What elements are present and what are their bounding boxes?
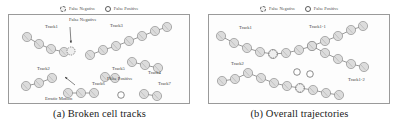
- cell-marker: [216, 31, 225, 40]
- cell-marker: [307, 41, 316, 50]
- cell-marker: [320, 36, 329, 45]
- cell-marker: [282, 81, 291, 90]
- cell-marker: [333, 31, 342, 40]
- cell-marker: [320, 48, 329, 57]
- track-label: False Positive: [107, 76, 133, 81]
- legend-item-false-negative: False Negative: [60, 6, 95, 12]
- cell-marker: [152, 91, 161, 100]
- figure-container: False Negative False Positive Track1Fals…: [0, 0, 399, 135]
- cell-marker: [359, 62, 368, 71]
- outline-circle-icon: [305, 6, 311, 12]
- track-label: False Negative: [69, 17, 96, 22]
- annotation-arrowhead: [70, 41, 72, 43]
- cell-marker: [46, 44, 55, 53]
- cell-marker: [229, 38, 238, 47]
- cell-marker: [150, 26, 159, 35]
- false-negative-marker: [296, 84, 304, 92]
- false-positive-marker: [118, 92, 125, 99]
- track-diagram-panel-b: Track1Track1-1Track1-2Track2: [209, 15, 390, 104]
- cell-marker: [47, 73, 56, 82]
- track-label: Track2: [231, 61, 245, 66]
- cell-marker: [256, 73, 265, 82]
- cell-marker: [127, 57, 136, 66]
- panel-broken-cell-tracks: False Negative False Positive Track1Fals…: [0, 0, 199, 135]
- panel-overall-trajectories: False Negative False Positive Track1Trac…: [200, 0, 399, 135]
- cell-marker: [346, 25, 355, 34]
- false-positive-marker: [307, 71, 314, 78]
- outline-circle-icon: [105, 6, 111, 12]
- track-label: Track4: [148, 70, 162, 75]
- legend-item-false-positive: False Positive: [305, 6, 338, 12]
- dashed-circle-icon: [260, 6, 266, 12]
- track-label: Track1: [45, 24, 59, 29]
- track-diagram-panel-a: Track1False NegativeTrack3Track5Track4Fa…: [9, 15, 190, 104]
- cell-marker: [294, 45, 303, 54]
- cell-marker: [346, 59, 355, 68]
- cell-marker: [89, 88, 98, 97]
- track-label: Track7: [158, 81, 172, 86]
- legend-label-false-positive: False Positive: [114, 7, 139, 11]
- cell-marker: [76, 88, 85, 97]
- legend-item-false-positive: False Positive: [105, 6, 138, 12]
- cell-marker: [308, 85, 317, 94]
- cell-marker: [269, 78, 278, 87]
- track-label: Track2: [37, 66, 51, 71]
- track-label: Track1: [239, 25, 253, 30]
- dashed-circle-icon: [60, 6, 66, 12]
- cell-marker: [22, 32, 31, 41]
- plot-area-panel-a: Track1False NegativeTrack3Track5Track4Fa…: [8, 14, 190, 104]
- false-positive-marker: [294, 69, 301, 76]
- cell-marker: [281, 48, 290, 57]
- legend-label-false-negative: False Negative: [69, 7, 95, 11]
- cell-marker: [21, 81, 30, 90]
- cell-marker: [358, 21, 367, 30]
- cell-marker: [321, 88, 330, 97]
- cell-marker: [124, 36, 133, 45]
- cell-marker: [111, 41, 120, 50]
- annotation-arrow: [70, 27, 71, 43]
- cell-marker: [98, 45, 107, 54]
- cell-marker: [162, 22, 171, 31]
- cell-marker: [137, 31, 146, 40]
- cell-marker: [217, 76, 226, 85]
- cell-marker: [85, 50, 94, 59]
- false-negative-marker: [269, 50, 277, 58]
- track-label: Track3: [110, 23, 124, 28]
- legend-item-false-negative: False Negative: [260, 6, 295, 12]
- caption-panel-a: (a) Broken cell tracks: [0, 108, 199, 119]
- track-label: Erratic Motion: [45, 96, 73, 101]
- track-label: Track1-2: [348, 77, 365, 82]
- cell-marker: [139, 89, 148, 98]
- cell-marker: [34, 78, 43, 87]
- cell-marker: [255, 47, 264, 56]
- legend-label-false-negative: False Negative: [269, 7, 295, 11]
- legend-label-false-positive: False Positive: [314, 7, 339, 11]
- caption-panel-b: (b) Overall trajectories: [200, 108, 399, 119]
- cell-marker: [243, 68, 252, 77]
- cell-marker: [242, 43, 251, 52]
- cell-marker: [333, 54, 342, 63]
- cell-marker: [334, 90, 343, 99]
- track-label: Track6: [92, 81, 106, 86]
- track-label: Track5: [112, 66, 126, 71]
- cell-marker: [230, 74, 239, 83]
- false-negative-marker: [67, 47, 75, 55]
- plot-area-panel-b: Track1Track1-1Track1-2Track2: [208, 14, 390, 104]
- cell-marker: [34, 39, 43, 48]
- track-label: Track1-1: [309, 24, 326, 29]
- cell-marker: [140, 60, 149, 69]
